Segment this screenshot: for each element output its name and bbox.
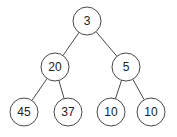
- node-label-left-right: 37: [54, 102, 82, 122]
- node-label-right-right: 10: [137, 102, 165, 122]
- tree-edge: [96, 32, 117, 57]
- node-label-root: 3: [73, 11, 101, 31]
- tree-edge: [115, 80, 121, 98]
- tree-edge: [32, 79, 47, 101]
- tree-edge: [59, 80, 64, 98]
- tree-edge: [133, 79, 144, 100]
- node-label-left: 20: [41, 57, 69, 77]
- tree-edge: [63, 32, 79, 55]
- node-label-left-left: 45: [10, 102, 38, 122]
- node-label-right-left: 10: [97, 102, 125, 122]
- node-label-right: 5: [112, 57, 140, 77]
- binary-tree-diagram: 3 20 5 45 37 10 10: [0, 0, 177, 137]
